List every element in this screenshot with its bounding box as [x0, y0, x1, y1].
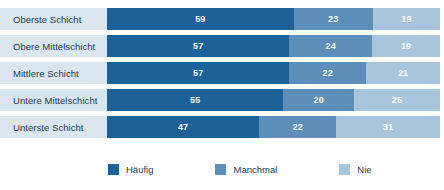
- chart-row: Untere Mittelschicht 55 20 25: [0, 89, 444, 111]
- segment-haeufig: 55: [107, 89, 283, 111]
- row-label-untere-mittelschicht: Untere Mittelschicht: [0, 89, 107, 111]
- legend-item-nie: Nie: [339, 164, 371, 175]
- segment-nie: 25: [354, 89, 440, 111]
- segment-nie: 19: [372, 35, 440, 57]
- segment-manchmal: 23: [294, 8, 373, 30]
- legend-item-manchmal: Manchmal: [215, 164, 277, 175]
- legend-label: Manchmal: [233, 164, 277, 175]
- segment-value: 57: [193, 41, 203, 51]
- segment-value: 22: [292, 122, 302, 132]
- segment-value: 31: [383, 122, 393, 132]
- segment-haeufig: 57: [107, 35, 289, 57]
- chart-legend: Häufig Manchmal Nie: [0, 158, 444, 180]
- segment-manchmal: 20: [283, 89, 354, 111]
- segment-nie: 21: [366, 62, 440, 84]
- segment-value: 24: [326, 41, 336, 51]
- row-label-obere-mittelschicht: Obere Mittelschicht: [0, 35, 107, 57]
- segment-nie: 31: [336, 116, 440, 138]
- chart-row: Unterste Schicht 47 22 31: [0, 116, 444, 138]
- segment-value: 55: [190, 95, 200, 105]
- row-bar: 55 20 25: [107, 89, 440, 111]
- chart-row: Oberste Schicht 59 23 19: [0, 8, 444, 30]
- row-bar: 59 23 19: [107, 8, 440, 30]
- segment-value: 23: [328, 14, 338, 24]
- segment-value: 21: [398, 68, 408, 78]
- segment-manchmal: 22: [259, 116, 336, 138]
- row-bar: 57 24 19: [107, 35, 440, 57]
- chart-row: Mittlere Schicht 57 22 21: [0, 62, 444, 84]
- chart-row: Obere Mittelschicht 57 24 19: [0, 35, 444, 57]
- chart-plot-area: Oberste Schicht 59 23 19 Obere Mittelsch…: [0, 8, 444, 143]
- segment-manchmal: 22: [289, 62, 366, 84]
- legend-label: Häufig: [126, 164, 153, 175]
- legend-item-haeufig: Häufig: [108, 164, 153, 175]
- row-label-oberste-schicht: Oberste Schicht: [0, 8, 107, 30]
- row-label-mittlere-schicht: Mittlere Schicht: [0, 62, 107, 84]
- legend-swatch-icon: [215, 164, 226, 175]
- row-label-unterste-schicht: Unterste Schicht: [0, 116, 107, 138]
- segment-value: 25: [392, 95, 402, 105]
- segment-value: 47: [178, 122, 188, 132]
- segment-nie: 19: [373, 8, 440, 30]
- segment-manchmal: 24: [289, 35, 372, 57]
- segment-haeufig: 59: [107, 8, 294, 30]
- segment-haeufig: 57: [107, 62, 289, 84]
- segment-value: 22: [323, 68, 333, 78]
- legend-swatch-icon: [339, 164, 350, 175]
- segment-value: 20: [314, 95, 324, 105]
- row-bar: 47 22 31: [107, 116, 440, 138]
- segment-value: 19: [401, 14, 411, 24]
- stacked-bar-chart: Oberste Schicht 59 23 19 Obere Mittelsch…: [0, 0, 444, 190]
- row-bar: 57 22 21: [107, 62, 440, 84]
- segment-value: 57: [193, 68, 203, 78]
- legend-swatch-icon: [108, 164, 119, 175]
- segment-value: 59: [195, 14, 205, 24]
- segment-haeufig: 47: [107, 116, 259, 138]
- segment-value: 19: [401, 41, 411, 51]
- legend-label: Nie: [357, 164, 371, 175]
